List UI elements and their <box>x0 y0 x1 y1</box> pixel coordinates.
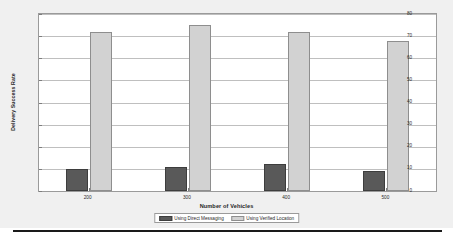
x-tick-mark <box>188 188 189 191</box>
y-tick-label: 0 <box>394 188 412 193</box>
y-axis-title: Delivery Success Rate <box>10 73 16 130</box>
bar-300-series0 <box>165 167 187 191</box>
y-tick-mark <box>39 125 42 126</box>
y-tick-mark <box>39 58 42 59</box>
legend-swatch-verified-location <box>231 216 244 221</box>
chart-legend: Using Direct Messaging Using Verified Lo… <box>154 213 299 223</box>
bar-500-series0 <box>363 171 385 191</box>
legend-label-verified-location: Using Verified Location <box>246 216 294 221</box>
x-axis-title: Number of Vehicles <box>0 203 453 209</box>
y-tick-mark <box>39 147 42 148</box>
y-tick-mark <box>39 169 42 170</box>
x-tick-label: 500 <box>370 195 400 201</box>
y-tick-label: 50 <box>394 77 412 82</box>
x-tick-mark <box>386 188 387 191</box>
bar-400-series0 <box>264 164 286 191</box>
y-tick-label: 20 <box>394 143 412 148</box>
y-tick-mark <box>39 103 42 104</box>
y-tick-label: 70 <box>394 33 412 38</box>
legend-label-direct-messaging: Using Direct Messaging <box>174 216 224 221</box>
y-tick-label: 40 <box>394 99 412 104</box>
bar-400-series1 <box>288 32 310 191</box>
legend-swatch-direct-messaging <box>159 216 172 221</box>
figure-canvas: Delivery Success Rate Number of Vehicles… <box>0 0 453 228</box>
legend-entry-direct-messaging[interactable]: Using Direct Messaging <box>159 216 224 221</box>
y-tick-mark <box>39 80 42 81</box>
y-tick-mark <box>39 14 42 15</box>
y-tick-label: 10 <box>394 165 412 170</box>
horizontal-rule <box>13 230 442 232</box>
x-tick-label: 400 <box>271 195 301 201</box>
plot-inner <box>39 14 436 191</box>
bar-200-series1 <box>90 32 112 191</box>
x-tick-label: 300 <box>172 195 202 201</box>
y-tick-label: 30 <box>394 121 412 126</box>
plot-area <box>38 13 437 192</box>
bar-200-series0 <box>66 169 88 191</box>
y-tick-label: 60 <box>394 55 412 60</box>
y-tick-mark <box>39 191 42 192</box>
x-tick-mark <box>89 188 90 191</box>
x-tick-label: 200 <box>73 195 103 201</box>
gridline <box>39 14 436 15</box>
y-tick-mark <box>39 36 42 37</box>
legend-entry-verified-location[interactable]: Using Verified Location <box>231 216 294 221</box>
y-tick-label: 80 <box>394 11 412 16</box>
x-tick-mark <box>287 188 288 191</box>
bar-300-series1 <box>189 25 211 191</box>
